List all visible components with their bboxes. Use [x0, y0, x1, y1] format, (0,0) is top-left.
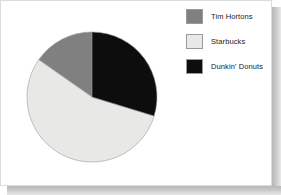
legend-swatch-tim-hortons [186, 9, 203, 24]
pie-chart-figure: Tim Hortons Starbucks Dunkin' Donuts [0, 0, 281, 195]
legend-label-dunkin-donuts: Dunkin' Donuts [211, 62, 263, 71]
panel-shadow-right [272, 7, 281, 195]
chart-legend: Tim Hortons Starbucks Dunkin' Donuts [186, 8, 270, 83]
legend-swatch-dunkin-donuts [186, 59, 203, 74]
legend-item-tim-hortons: Tim Hortons [186, 8, 270, 25]
legend-label-tim-hortons: Tim Hortons [211, 12, 253, 21]
legend-item-starbucks: Starbucks [186, 33, 270, 50]
legend-swatch-starbucks [186, 34, 203, 49]
pie-svg [26, 31, 158, 163]
panel-shadow-bottom [7, 186, 281, 195]
legend-label-starbucks: Starbucks [211, 37, 245, 46]
pie-slices [27, 32, 157, 162]
legend-item-dunkin-donuts: Dunkin' Donuts [186, 58, 270, 75]
pie-plot-area [26, 31, 158, 163]
